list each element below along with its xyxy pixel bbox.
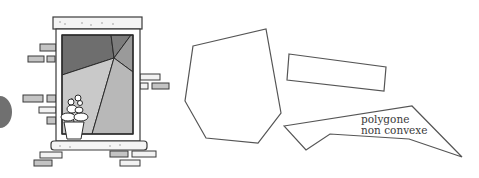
figure: polygone non convexe xyxy=(0,0,479,178)
rectangle xyxy=(287,54,386,91)
side-tab xyxy=(0,96,12,128)
label-non-convexe: non convexe xyxy=(361,125,427,136)
convex-polygon xyxy=(185,29,281,143)
